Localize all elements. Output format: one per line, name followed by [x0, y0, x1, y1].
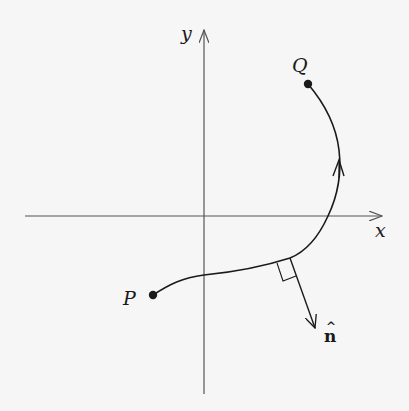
normal-hat-icon: ^ [326, 320, 336, 334]
diagram-canvas: x y P Q n ^ [0, 0, 409, 411]
point-q-dot [304, 80, 312, 88]
point-q-label: Q [292, 54, 308, 76]
x-axis-label: x [375, 219, 386, 241]
y-axis-label: y [180, 22, 192, 44]
curve-path [153, 84, 340, 295]
normal-vector [290, 258, 315, 328]
point-p-label: P [122, 287, 137, 309]
point-p-dot [149, 291, 157, 299]
